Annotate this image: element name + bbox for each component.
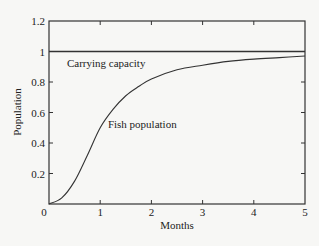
annotations: Carrying capacityFish population [67,57,177,130]
x-tick-label: 3 [200,206,206,218]
y-tick-label: 0.2 [31,168,45,180]
y-tick-label: 1.2 [31,15,45,27]
fish-population-label: Fish population [108,118,177,130]
y-tick-label: 0.4 [31,137,45,149]
y-tick-label: 0.8 [31,76,45,88]
y-tick-labels: 0.20.40.60.811.2 [31,15,45,180]
x-tick-label: 2 [149,206,155,218]
x-axis-title: Months [160,219,194,231]
origin-label: 0 [41,206,47,218]
fish-population-line [49,56,305,204]
x-tick-label: 5 [302,206,308,218]
y-tick-label: 0.6 [31,107,45,119]
x-tick-label: 1 [97,206,103,218]
plot-border [49,21,305,204]
x-tick-labels: 12345 [97,206,308,218]
plot-frame [49,21,305,204]
y-axis-title: Population [11,88,23,136]
x-tick-label: 4 [251,206,257,218]
axis-ticks [49,21,305,204]
y-tick-label: 1 [40,46,46,58]
data-series [49,52,305,205]
carrying-capacity-label: Carrying capacity [67,57,146,69]
population-chart: 12345 0.20.40.60.811.2 Carrying capacity… [0,0,319,246]
